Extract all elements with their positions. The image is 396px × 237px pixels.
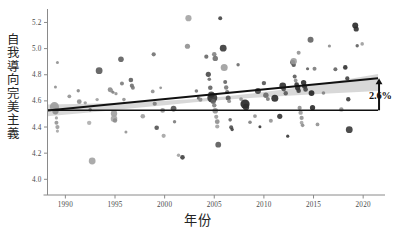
x-tick-label: 1990 [58, 201, 73, 209]
y-tick-label: 4.2 [32, 150, 42, 158]
x-axis-label: 年份 [0, 210, 396, 229]
y-tick-label: 4.8 [32, 71, 42, 79]
y-tick-label: 5.2 [32, 19, 42, 27]
x-tick-label: 2020 [356, 201, 371, 209]
x-tick-label: 1995 [107, 201, 122, 209]
percent-change-annotation: 2.6% [369, 90, 392, 101]
x-tick-label: 2010 [256, 201, 271, 209]
y-axis-label: 自我導向完美主義 [4, 34, 21, 141]
x-tick-label: 2005 [207, 201, 222, 209]
scatter-chart: 4.04.24.44.64.85.05.21990199520002005201… [0, 0, 396, 237]
y-tick-label: 4.6 [32, 97, 42, 105]
y-tick-label: 5.0 [32, 45, 42, 53]
plot-area: 4.04.24.44.64.85.05.21990199520002005201… [0, 0, 396, 237]
y-tick-label: 4.4 [32, 124, 42, 132]
x-tick-label: 2000 [157, 201, 172, 209]
y-tick-label: 4.0 [32, 176, 42, 184]
x-tick-label: 2015 [306, 201, 321, 209]
